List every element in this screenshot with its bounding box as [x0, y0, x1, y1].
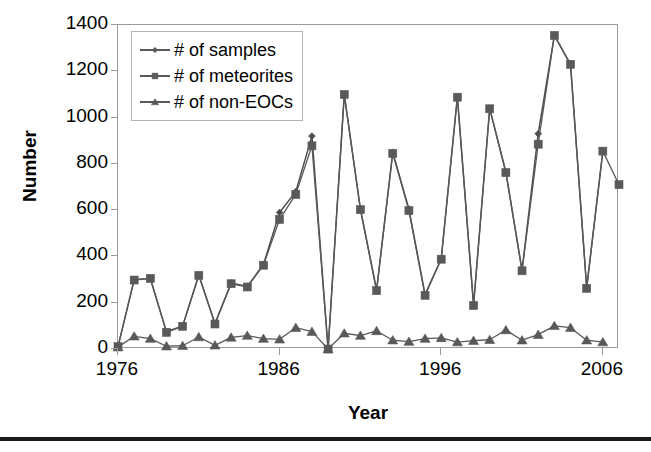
data-point: [405, 207, 413, 215]
data-point: [130, 276, 138, 284]
data-point: [259, 261, 267, 269]
y-tick-mark: [111, 209, 117, 210]
data-point: [194, 332, 204, 340]
data-point: [599, 147, 607, 155]
x-tick-label: 2006: [567, 358, 637, 380]
y-tick-mark: [111, 302, 117, 303]
data-point: [567, 60, 575, 68]
y-tick-mark: [111, 255, 117, 256]
y-axis-tick-labels: 0200400600800100012001400: [36, 0, 108, 452]
x-axis-title: Year: [117, 402, 619, 424]
legend-marker-square-icon: [138, 67, 172, 85]
data-point: [356, 206, 364, 214]
legend-label: # of samples: [172, 40, 276, 61]
y-tick-label: 400: [40, 244, 108, 263]
data-point: [211, 320, 219, 328]
x-tick-mark: [602, 348, 603, 355]
data-point: [502, 169, 510, 177]
y-tick-label: 200: [40, 291, 108, 310]
data-point: [339, 329, 349, 337]
data-point: [309, 133, 316, 140]
y-tick-label: 1200: [40, 59, 108, 78]
data-point: [291, 323, 301, 331]
x-tick-mark: [279, 348, 280, 355]
data-point: [389, 149, 397, 157]
x-tick-label: 1976: [82, 358, 152, 380]
y-tick-mark: [111, 163, 117, 164]
y-tick-label: 1400: [40, 13, 108, 32]
data-point: [129, 332, 139, 340]
data-point: [583, 284, 591, 292]
data-point: [242, 331, 252, 339]
legend-item-3: # of non-EOCs: [138, 89, 293, 115]
data-point: [453, 93, 461, 101]
x-tick-label: 1996: [405, 358, 475, 380]
data-point: [292, 190, 300, 198]
x-tick-mark: [440, 348, 441, 355]
y-tick-label: 1000: [40, 106, 108, 125]
chart-figure: Number 0200400600800100012001400 Year # …: [0, 0, 651, 452]
legend-label: # of meteorites: [172, 66, 293, 87]
data-point: [421, 291, 429, 299]
x-tick-mark: [117, 348, 118, 355]
x-tick-label: 1986: [244, 358, 314, 380]
legend-item-1: # of samples: [138, 37, 293, 63]
legend-marker-diamond-icon: [138, 41, 172, 59]
data-point: [227, 280, 235, 288]
data-point: [534, 140, 542, 148]
data-point: [179, 322, 187, 330]
data-point: [276, 215, 284, 223]
y-tick-mark: [111, 117, 117, 118]
data-point: [550, 31, 558, 39]
data-point: [388, 336, 398, 344]
y-tick-mark: [111, 70, 117, 71]
series-3: [113, 321, 608, 352]
data-point: [146, 274, 154, 282]
y-tick-label: 0: [40, 337, 108, 356]
data-point: [210, 341, 220, 349]
data-point: [518, 267, 526, 275]
data-point: [486, 105, 494, 113]
chart-legend: # of samples# of meteorites# of non-EOCs: [131, 31, 303, 121]
data-point: [162, 328, 170, 336]
legend-marker-triangle-icon: [138, 93, 172, 111]
legend-item-2: # of meteorites: [138, 63, 293, 89]
y-tick-label: 600: [40, 198, 108, 217]
legend-marker-glyph: [149, 70, 161, 82]
data-point: [340, 90, 348, 98]
legend-marker-glyph: [149, 44, 161, 56]
y-tick-label: 800: [40, 152, 108, 171]
data-point: [373, 287, 381, 295]
legend-marker-glyph: [149, 96, 161, 108]
data-point: [549, 321, 559, 329]
bottom-divider: [0, 437, 651, 441]
data-point: [195, 271, 203, 279]
legend-label: # of non-EOCs: [172, 92, 293, 113]
data-point: [308, 142, 316, 150]
data-point: [243, 283, 251, 291]
data-point: [517, 336, 527, 344]
y-tick-mark: [111, 24, 117, 25]
data-point: [533, 330, 543, 338]
data-point: [437, 255, 445, 263]
data-point: [615, 181, 623, 189]
data-point: [372, 326, 382, 334]
data-point: [470, 301, 478, 309]
data-point: [501, 325, 511, 333]
